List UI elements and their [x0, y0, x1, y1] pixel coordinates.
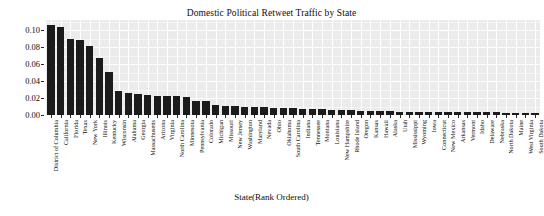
bar[interactable] — [134, 94, 141, 115]
x-axis-tick-label: New Hampshire — [344, 120, 350, 160]
x-axis-tick-mark — [303, 115, 304, 118]
x-axis-tick-mark — [109, 115, 110, 118]
bars-group — [46, 20, 540, 115]
x-axis-tick-label: Minnesota — [189, 120, 195, 146]
x-axis-tick-label: Georgia — [140, 120, 146, 140]
bar[interactable] — [192, 101, 199, 115]
bar[interactable] — [67, 39, 74, 115]
bar[interactable] — [260, 107, 267, 115]
x-axis-tick-label: Maine — [518, 120, 524, 136]
x-axis-tick-label: Florida — [73, 120, 79, 138]
bar[interactable] — [231, 106, 238, 115]
bar[interactable] — [280, 108, 287, 115]
bar[interactable] — [154, 96, 161, 116]
x-axis-tick-label: Arkansas — [460, 120, 466, 143]
bar[interactable] — [115, 91, 122, 115]
x-axis-tick-label: Hawaii — [383, 120, 389, 138]
x-axis-tick-mark — [487, 115, 488, 118]
x-axis-tick-label: Washington — [247, 120, 253, 149]
x-axis-tick-label: Texas — [82, 120, 88, 134]
x-axis-tick-mark — [370, 115, 371, 118]
x-axis-tick-mark — [167, 115, 168, 118]
bar[interactable] — [289, 108, 296, 115]
bar[interactable] — [222, 106, 229, 115]
x-axis-tick-label: Virginia — [169, 120, 175, 140]
x-axis-tick-mark — [216, 115, 217, 118]
y-axis-tick-label: 0.10 — [25, 25, 40, 35]
x-axis-tick-mark — [61, 115, 62, 118]
x-axis-tick-label: Oregon — [363, 120, 369, 139]
bar[interactable] — [270, 108, 277, 115]
x-axis-tick-mark — [477, 115, 478, 118]
x-axis-tick-mark — [312, 115, 313, 118]
x-axis-tick-label: Oklahoma — [286, 120, 292, 146]
bar[interactable] — [202, 101, 209, 115]
x-axis-tick-label: Iowa — [431, 120, 437, 132]
x-axis-tick-mark — [506, 115, 507, 118]
x-axis-tick-label: Maryland — [257, 120, 263, 144]
bar[interactable] — [183, 97, 190, 115]
x-axis-tick-mark — [245, 115, 246, 118]
y-axis-tick-labels: 0.000.020.040.060.080.10 — [16, 20, 44, 114]
x-axis-tick-label: New Mexico — [450, 120, 456, 152]
x-axis-tick-label: Alabama — [131, 120, 137, 142]
x-axis-tick-mark — [225, 115, 226, 118]
x-axis-tick-label: Delaware — [489, 120, 495, 144]
y-axis-tick-label: 0.06 — [25, 59, 40, 69]
x-axis-tick-mark — [138, 115, 139, 118]
x-axis-tick-label: California — [63, 120, 69, 145]
x-axis-tick-label: Vermont — [470, 120, 476, 141]
x-axis-tick-mark — [274, 115, 275, 118]
bar[interactable] — [251, 107, 258, 115]
x-axis-tick-mark — [235, 115, 236, 118]
x-axis-tick-label: Mississippi — [412, 120, 418, 148]
x-axis-tick-mark — [322, 115, 323, 118]
x-axis-tick-mark — [467, 115, 468, 118]
x-axis-tick-label: Arizona — [160, 120, 166, 140]
bar[interactable] — [57, 27, 64, 115]
bar[interactable] — [241, 107, 248, 115]
x-axis-tick-mark — [400, 115, 401, 118]
bar[interactable] — [96, 58, 103, 115]
bar[interactable] — [173, 96, 180, 115]
y-axis-tick-mark — [41, 81, 44, 82]
y-axis-tick-label: 0.04 — [25, 76, 40, 86]
x-axis-tick-mark — [293, 115, 294, 118]
x-axis-tick-mark — [119, 115, 120, 118]
bar[interactable] — [47, 25, 54, 115]
x-axis-tick-label: Idaho — [479, 120, 485, 134]
bar[interactable] — [144, 95, 151, 115]
x-axis-tick-label: Kansas — [373, 120, 379, 138]
x-axis-tick-label: Massachusetts — [150, 120, 156, 156]
x-axis-tick-label: Michigan — [218, 120, 224, 144]
x-axis-tick-mark — [380, 115, 381, 118]
x-axis-tick-label: Tennessee — [315, 120, 321, 145]
x-axis-tick-mark — [448, 115, 449, 118]
x-axis-tick-label: New York — [92, 120, 98, 145]
y-axis-tick-label: 0.02 — [25, 93, 40, 103]
plot-panel — [46, 20, 540, 115]
x-axis-tick-label: North Carolina — [179, 120, 185, 157]
x-axis-tick-mark — [148, 115, 149, 118]
bar[interactable] — [125, 93, 132, 115]
x-axis-tick-label: South Carolina — [295, 120, 301, 157]
x-axis-tick-label: Montana — [324, 120, 330, 142]
bar[interactable] — [163, 96, 170, 116]
x-axis-tick-label: Wisconsin — [121, 120, 127, 146]
bar[interactable] — [76, 40, 83, 115]
bar[interactable] — [86, 46, 93, 115]
x-axis-tick-label: Pennsylvania — [199, 120, 205, 153]
x-axis-tick-mark — [409, 115, 410, 118]
x-axis-tick-label: New Jersey — [237, 120, 243, 149]
bar[interactable] — [105, 72, 112, 115]
x-axis-tick-mark — [438, 115, 439, 118]
y-axis-tick-mark — [41, 98, 44, 99]
y-axis-tick-mark — [41, 64, 44, 65]
x-axis-tick-label: North Dakota — [508, 120, 514, 154]
x-axis-tick-label: Indiana — [305, 120, 311, 139]
x-axis-tick-label: West Virginia — [528, 120, 534, 154]
bar[interactable] — [212, 105, 219, 115]
x-axis-tick-mark — [90, 115, 91, 118]
x-axis-tick-mark — [264, 115, 265, 118]
x-axis-tick-mark — [206, 115, 207, 118]
